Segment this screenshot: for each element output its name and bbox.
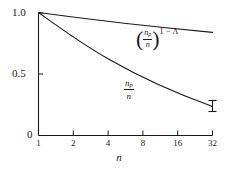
- chart-figure: 1.0 0.5 0 1 2 4 8 16 32 n (npn)1 − Λ npn: [0, 0, 226, 171]
- x-tick-label-32: 32: [208, 139, 217, 148]
- fraction-denominator: n: [143, 40, 152, 49]
- plot-canvas: [0, 0, 226, 171]
- exponent-label: 1 − Λ: [160, 28, 179, 36]
- fraction-np-over-n: npn: [143, 28, 152, 49]
- fraction-numerator: np: [124, 78, 134, 89]
- x-tick-label-4: 4: [106, 139, 111, 148]
- curve-upper: [39, 13, 213, 33]
- fraction-np-over-n-lower: npn: [124, 78, 134, 101]
- annotation-lower-curve: npn: [124, 78, 134, 101]
- y-tick-label-1: 1.0: [12, 7, 26, 18]
- fraction-denominator: n: [124, 91, 134, 101]
- y-tick-label-3: 0: [27, 129, 33, 140]
- x-tick-label-16: 16: [173, 139, 182, 148]
- annotation-upper-curve: (npn)1 − Λ: [136, 28, 178, 50]
- fraction-numerator: np: [143, 28, 152, 38]
- x-tick-label-8: 8: [141, 139, 146, 148]
- x-axis-title: n: [116, 152, 122, 163]
- paren-open: (: [136, 26, 143, 51]
- paren-close: ): [152, 26, 159, 51]
- y-tick-label-2: 0.5: [12, 68, 26, 79]
- x-tick-label-1: 1: [36, 139, 41, 148]
- x-tick-label-2: 2: [71, 139, 76, 148]
